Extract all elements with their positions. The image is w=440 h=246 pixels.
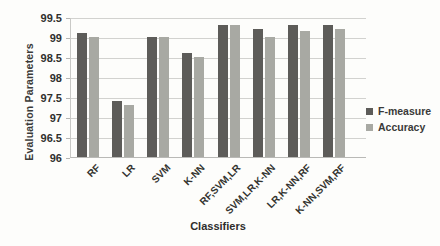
y-axis-tick-label: 97.5 xyxy=(28,93,62,104)
y-axis-tick xyxy=(66,118,70,119)
bar-f-measure xyxy=(77,33,87,157)
legend-item: F-measure xyxy=(366,106,431,117)
gridline xyxy=(71,18,366,19)
y-axis-tick-label: 98 xyxy=(28,73,62,84)
x-axis-title: Classifiers xyxy=(70,220,366,232)
bar-group xyxy=(182,53,204,157)
bar-f-measure xyxy=(253,29,263,157)
bar-accuracy xyxy=(124,105,134,157)
bar-accuracy xyxy=(335,29,345,157)
legend-item: Accuracy xyxy=(366,122,431,133)
bar-f-measure xyxy=(323,25,333,157)
bar-accuracy xyxy=(194,57,204,157)
x-axis-tick-label: K-NN xyxy=(182,162,207,187)
bar-f-measure xyxy=(182,53,192,157)
bar-accuracy xyxy=(159,37,169,157)
y-axis-tick-label: 96 xyxy=(28,153,62,164)
bar-group xyxy=(147,37,169,157)
plot-area xyxy=(70,18,366,158)
legend: F-measureAccuracy xyxy=(366,106,431,133)
bar-group xyxy=(288,25,310,157)
y-axis-tick-label: 99 xyxy=(28,33,62,44)
y-axis-tick xyxy=(66,38,70,39)
y-axis-tick xyxy=(66,18,70,19)
y-axis-tick xyxy=(66,158,70,159)
x-axis-tick-label: LR xyxy=(120,162,137,179)
bar-accuracy xyxy=(230,25,240,157)
bar-accuracy xyxy=(89,37,99,157)
y-axis-tick xyxy=(66,58,70,59)
y-axis-tick-label: 97 xyxy=(28,113,62,124)
bar-accuracy xyxy=(265,37,275,157)
bar-f-measure xyxy=(218,25,228,157)
bar-f-measure xyxy=(147,37,157,157)
legend-swatch-icon xyxy=(366,124,373,131)
y-axis-tick-label: 99.5 xyxy=(28,13,62,24)
y-axis-tick xyxy=(66,98,70,99)
bar-group xyxy=(218,25,240,157)
bar-group xyxy=(323,25,345,157)
x-axis-tick-label: SVM xyxy=(149,162,172,185)
y-axis-tick-label: 98.5 xyxy=(28,53,62,64)
bar-f-measure xyxy=(288,25,298,157)
bar-group xyxy=(112,101,134,157)
legend-swatch-icon xyxy=(366,108,373,115)
legend-label: Accuracy xyxy=(378,122,425,133)
bar-group xyxy=(253,29,275,157)
bar-group xyxy=(77,33,99,157)
y-axis-tick xyxy=(66,78,70,79)
x-axis-tick-label: RF xyxy=(85,162,102,179)
bar-chart-figure: Evaluation Parameters 99.59998.59897.597… xyxy=(0,0,440,246)
bar-f-measure xyxy=(112,101,122,157)
y-axis-tick xyxy=(66,138,70,139)
legend-label: F-measure xyxy=(378,106,431,117)
y-axis-tick-label: 96.5 xyxy=(28,133,62,144)
bar-accuracy xyxy=(300,31,310,157)
